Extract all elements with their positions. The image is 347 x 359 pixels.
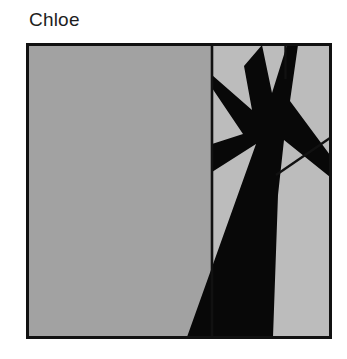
page-title: Chloe: [29, 9, 80, 31]
left-gray-field: [28, 45, 212, 337]
artwork-figure: [26, 43, 332, 339]
artwork-page: Chloe: [0, 0, 347, 359]
artwork-canvas: [26, 43, 332, 339]
